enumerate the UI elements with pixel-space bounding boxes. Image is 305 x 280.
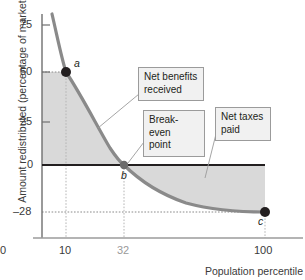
x-tick-label-0: 0 [0, 245, 6, 256]
x-tick-label-100: 100 [254, 245, 272, 256]
leader-line-break-even [128, 142, 144, 163]
x-axis-title: Population percentile [205, 266, 303, 278]
y-axis-title: Amount redistributed (percentage of mark… [17, 33, 29, 203]
y-tick-label-neg28: –28 [13, 206, 31, 217]
redistribution-chart: 75 50 25 0 –28 0 10 32 100 Amount redist… [0, 0, 305, 280]
leader-line-net-benefits [98, 94, 139, 128]
point-label-b: b [121, 170, 127, 181]
point-label-a: a [74, 58, 80, 69]
data-point-b [120, 161, 128, 169]
x-tick-label-10: 10 [59, 245, 71, 256]
x-tick-label-32: 32 [117, 245, 129, 256]
callout-break-even: Break-even point [143, 110, 205, 157]
callout-net-taxes: Net taxes paid [215, 107, 271, 141]
data-point-a [61, 67, 71, 77]
callout-net-benefits: Net benefits received [138, 67, 204, 101]
point-label-c: c [258, 216, 263, 227]
